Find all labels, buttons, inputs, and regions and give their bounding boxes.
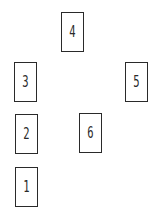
card-3: 3 (14, 62, 37, 102)
card-5-label: 5 (133, 75, 139, 90)
card-2: 2 (15, 114, 38, 154)
card-5: 5 (125, 62, 148, 102)
card-spread-diagram: 1 2 3 4 5 6 (0, 0, 162, 214)
card-4: 4 (61, 12, 84, 52)
card-1: 1 (15, 167, 38, 207)
card-2-label: 2 (23, 127, 29, 142)
card-1-label: 1 (23, 180, 29, 195)
card-6-label: 6 (87, 126, 93, 141)
card-3-label: 3 (22, 75, 28, 90)
card-4-label: 4 (69, 25, 75, 40)
card-6: 6 (79, 113, 102, 153)
